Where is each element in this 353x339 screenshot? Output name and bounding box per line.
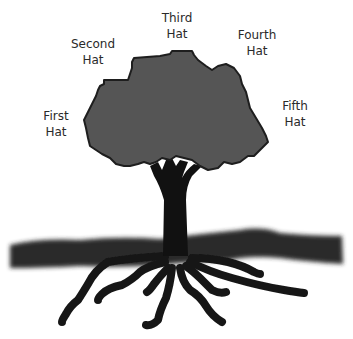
label-third-hat-line1: Third [157, 10, 197, 26]
label-first-hat-line2: Hat [38, 124, 74, 140]
roots [62, 256, 304, 325]
canopy [84, 51, 268, 170]
label-fifth-hat: Fifth Hat [277, 98, 313, 130]
label-second-hat: Second Hat [68, 36, 118, 68]
tree-illustration [0, 0, 353, 339]
label-first-hat-line1: First [38, 108, 74, 124]
tree-diagram: First Hat Second Hat Third Hat Fourth Ha… [0, 0, 353, 339]
label-third-hat-line2: Hat [157, 26, 197, 42]
label-second-hat-line2: Hat [68, 52, 118, 68]
label-fourth-hat-line2: Hat [234, 43, 280, 59]
label-third-hat: Third Hat [157, 10, 197, 42]
label-fourth-hat-line1: Fourth [234, 27, 280, 43]
label-second-hat-line1: Second [68, 36, 118, 52]
label-fifth-hat-line2: Hat [277, 114, 313, 130]
label-fifth-hat-line1: Fifth [277, 98, 313, 114]
label-first-hat: First Hat [38, 108, 74, 140]
label-fourth-hat: Fourth Hat [234, 27, 280, 59]
